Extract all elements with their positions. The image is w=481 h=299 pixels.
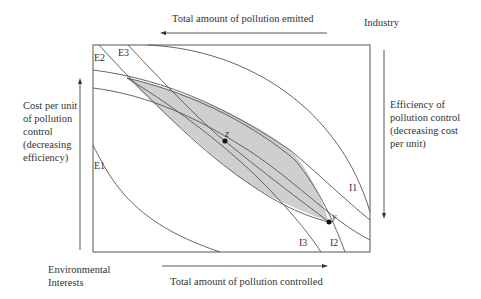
bottom-axis-arrowhead [322, 264, 328, 268]
i2-label: I2 [330, 237, 338, 248]
right-axis-label-line4: per unit) [390, 137, 426, 150]
i3-label: I3 [299, 237, 307, 248]
bottom-axis-label: Total amount of pollution controlled [170, 275, 323, 288]
top-axis-arrowhead [160, 31, 166, 35]
e3-label: E3 [118, 47, 129, 58]
e2-label: E2 [94, 52, 105, 63]
right-axis-label-line3: (decreasing cost [390, 124, 458, 137]
e1-label: E1 [94, 160, 105, 171]
contract-zone-shading [127, 78, 329, 222]
left-axis-label-line5: efficiency) [23, 151, 68, 164]
point-y [327, 220, 332, 225]
e1-curve [93, 145, 220, 252]
right-axis-label-line1: Efficiency of [390, 98, 445, 111]
y-point-label: y [332, 211, 336, 222]
z-point-label: z [225, 128, 229, 139]
point-z [223, 139, 228, 144]
i1-label: I1 [349, 182, 357, 193]
left-axis-label-line3: control [23, 125, 53, 138]
environmental-label-line2: Interests [48, 276, 84, 289]
left-axis-arrowhead [78, 78, 82, 84]
environmental-label-line1: Environmental [48, 263, 110, 276]
left-axis-label-line4: (decreasing [23, 138, 71, 151]
right-axis-label-line2: pollution control [390, 111, 460, 124]
left-axis-label-line1: Cost per unit [23, 99, 77, 112]
top-axis-label: Total amount of pollution emitted [172, 12, 314, 25]
left-axis-label-line2: of pollution [23, 112, 72, 125]
right-axis-arrowhead [382, 213, 386, 219]
industry-label: Industry [364, 16, 399, 29]
